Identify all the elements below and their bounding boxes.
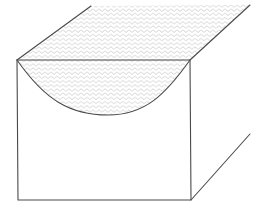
prism-diagram [0,0,259,213]
top-face-shaded-region [17,5,250,60]
bottom-right-receding-edge [191,134,250,200]
front-face-shaded-region [17,60,190,115]
